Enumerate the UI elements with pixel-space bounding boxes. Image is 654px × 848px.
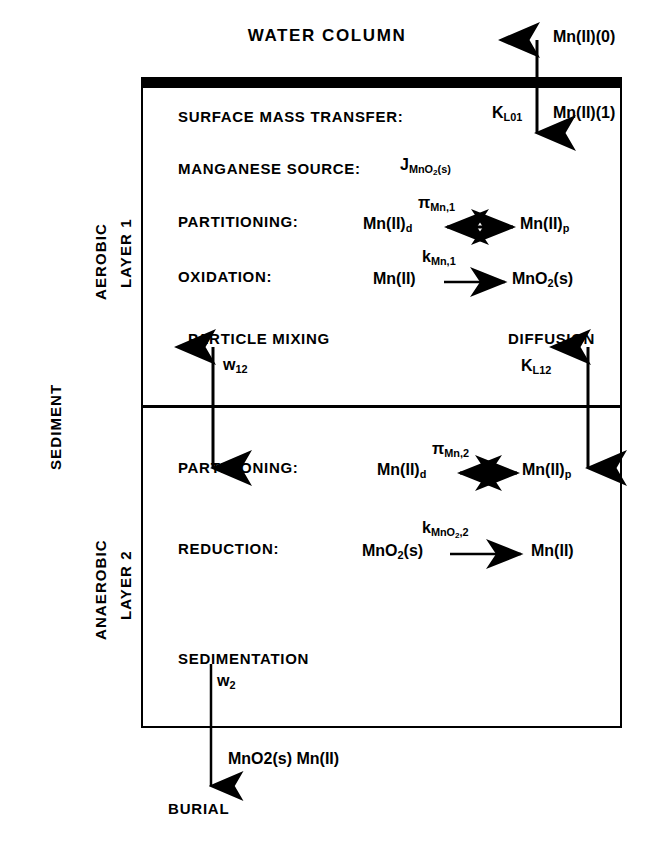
burial-label: BURIAL [168,800,229,817]
species-burial: MnO2(s) Mn(II) [228,750,339,768]
row-label-reduction: REDUCTION: [178,540,279,557]
label-sedimentation: SEDIMENTATION [178,650,309,667]
row-label-partitioning-layer1: PARTITIONING: [178,213,298,230]
row-label-partitioning-layer2: PARTITIONING: [178,459,298,476]
coefficient-pi-mn-1: πMn,1 [418,194,455,212]
species-mn-ii-dissolved-layer1: Mn(II)d [363,215,412,233]
species-mn-ii-oxidation-reactant: Mn(II) [373,270,416,288]
coefficient-w2: w2 [217,672,236,690]
coefficient-kl12: KL12 [521,357,551,375]
side-label-layer-1: LAYER 1 [117,218,134,288]
layer-divider-line [141,405,622,408]
row-label-surface-mass-transfer: SURFACE MASS TRANSFER: [178,108,403,125]
side-label-layer-2: LAYER 2 [117,550,134,620]
coefficient-pi-mn-2: πMn,2 [432,440,469,458]
species-mn-ii-water-column: Mn(II)(0) [553,28,615,46]
label-diffusion: DIFFUSION [508,330,595,347]
side-label-sediment: SEDIMENT [47,384,64,470]
row-label-manganese-source: MANGANESE SOURCE: [178,160,361,177]
label-particle-mixing: PARTICLE MIXING [188,330,330,347]
species-mn-ii-particulate-layer2: Mn(II)p [522,461,571,479]
species-mn-ii-particulate-layer1: Mn(II)p [520,215,569,233]
side-label-anaerobic: ANAEROBIC [92,539,109,640]
species-mn-ii-reduction-product: Mn(II) [531,542,574,560]
side-label-aerobic: AEROBIC [92,223,109,300]
coefficient-k-mno2-2: kMnO2,2 [422,519,469,537]
species-mn-ii-dissolved-layer2: Mn(II)d [377,461,426,479]
coefficient-k-mn-1: kMn,1 [422,248,456,266]
species-mno2-s-oxidation-product: MnO2(s) [512,270,573,288]
species-mno2-s-reduction-reactant: MnO2(s) [362,542,423,560]
coefficient-kl01: KL01 [492,104,522,122]
coefficient-j-mno2-s: JMnO2(s) [400,156,451,174]
sediment-water-interface-bar [141,77,622,88]
coefficient-w12: w12 [223,356,248,374]
row-label-oxidation: OXIDATION: [178,268,272,285]
species-mn-ii-layer1: Mn(II)(1) [553,104,615,122]
